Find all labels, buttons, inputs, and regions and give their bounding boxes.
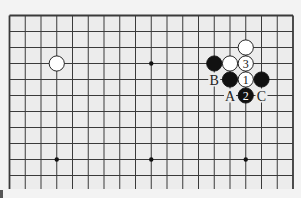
black-stone [222, 72, 237, 87]
corner-mark [0, 190, 3, 198]
move-number: 3 [243, 57, 249, 71]
star-point [244, 157, 248, 161]
white-stone: 3 [238, 56, 253, 71]
black-stone [207, 56, 222, 71]
black-stone [254, 72, 269, 87]
move-number: 1 [243, 73, 249, 87]
white-stone [238, 40, 253, 55]
star-point [149, 61, 153, 65]
go-board: 312 BAC [0, 0, 301, 198]
white-stone [49, 56, 64, 71]
letter-label-c: C [257, 89, 266, 104]
move-number: 2 [243, 89, 249, 103]
black-stone: 2 [238, 88, 253, 103]
letter-label-a: A [225, 89, 236, 104]
letter-label-b: B [210, 73, 219, 88]
white-stone: 1 [238, 72, 253, 87]
star-point [149, 157, 153, 161]
white-stone [222, 56, 237, 71]
star-point [55, 157, 59, 161]
